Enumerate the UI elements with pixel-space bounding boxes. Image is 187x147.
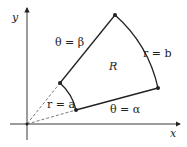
x-axis-label: x	[170, 127, 177, 140]
point-inner-beta	[58, 81, 62, 85]
dashed-ray-alpha	[27, 110, 76, 124]
label-theta-beta: θ = β	[55, 36, 84, 49]
edge-theta-beta	[60, 15, 115, 83]
label-r-b: r = b	[143, 47, 172, 60]
diagram-canvas: y x θ = β r = b R r = a θ = α	[0, 0, 187, 147]
y-axis-label: y	[11, 11, 19, 24]
polar-region-diagram: y x θ = β r = b R r = a θ = α	[0, 0, 187, 147]
point-origin	[26, 123, 29, 126]
label-r-a: r = a	[47, 98, 75, 111]
point-outer-beta	[113, 13, 117, 17]
label-theta-alpha: θ = α	[110, 103, 141, 116]
point-outer-alpha	[156, 86, 160, 90]
region-label: R	[108, 60, 117, 73]
